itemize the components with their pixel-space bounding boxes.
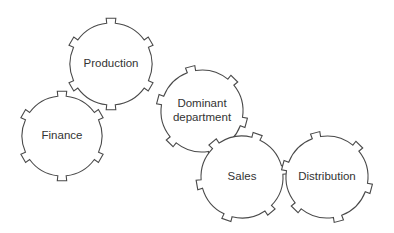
gear-label: Production [84,57,139,69]
gear-finance: Finance [21,91,103,181]
gear-label: Dominant [177,97,227,109]
gear-sales: Sales [196,132,288,221]
gear-label: Distribution [298,170,356,182]
gear-production: Production [69,18,153,110]
gear-distribution: Distribution [282,132,373,223]
diagram-canvas: ProductionFinanceDominantdepartmentSales… [0,0,394,233]
gear-diagram: ProductionFinanceDominantdepartmentSales… [0,0,394,233]
gear-label: Sales [228,170,257,182]
gears-layer: ProductionFinanceDominantdepartmentSales… [21,18,373,222]
gear-label: Finance [42,129,83,141]
gear-label: department [173,111,232,123]
